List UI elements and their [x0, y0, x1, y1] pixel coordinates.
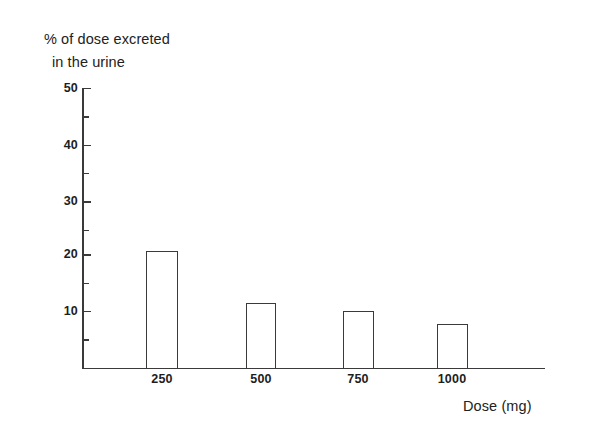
y-tick-minor-15	[84, 283, 89, 284]
x-tick-label-1000: 1000	[420, 372, 484, 386]
x-tick-label-750: 750	[326, 372, 390, 386]
plot-area: 50 40 30 20 10 250 500 750 1000 Dose (mg…	[0, 0, 601, 434]
y-tick-30	[84, 201, 91, 202]
y-tick-label-50: 50	[48, 81, 78, 95]
y-tick-40	[84, 145, 91, 146]
y-tick-minor-35	[84, 173, 89, 174]
x-axis-title: Dose (mg)	[463, 398, 532, 414]
y-tick-20	[84, 254, 91, 255]
y-tick-label-10: 10	[48, 304, 78, 318]
y-axis-line	[82, 88, 84, 369]
y-tick-label-20: 20	[48, 247, 78, 261]
bar-750	[343, 311, 374, 368]
chart-page: % of dose excreted in the urine 50 40 30…	[0, 0, 601, 434]
y-tick-50	[84, 88, 91, 89]
x-tick-label-500: 500	[229, 372, 293, 386]
y-tick-minor-5	[84, 339, 89, 340]
y-tick-label-30: 30	[48, 194, 78, 208]
x-tick-label-250: 250	[130, 372, 194, 386]
y-tick-10	[84, 311, 91, 312]
y-tick-minor-45	[84, 116, 89, 117]
bar-1000	[437, 324, 468, 368]
y-tick-minor-25	[84, 230, 89, 231]
y-tick-label-40: 40	[48, 138, 78, 152]
bar-250	[146, 251, 178, 368]
bar-500	[246, 303, 276, 368]
